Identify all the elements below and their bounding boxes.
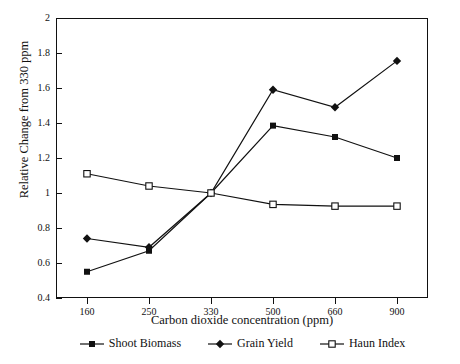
x-tick-mark (335, 298, 336, 304)
legend-item-label: Shoot Biomass (109, 336, 181, 351)
series-layer (56, 18, 428, 298)
legend-item-label: Haun Index (349, 336, 405, 351)
data-point-filled-square (394, 155, 400, 161)
data-point-open-square (270, 201, 276, 207)
x-tick-mark (273, 298, 274, 304)
series-line (87, 61, 397, 247)
data-point-open-square (394, 203, 400, 209)
data-point-open-square (84, 171, 90, 177)
y-tick-label: 0.4 (24, 293, 50, 303)
series-haun-index (84, 171, 400, 210)
data-point-open-square (332, 203, 338, 209)
x-tick-mark (211, 298, 212, 304)
data-point-open-square (146, 183, 152, 189)
x-tick-mark (149, 298, 150, 304)
legend: Shoot BiomassGrain YieldHaun Index (56, 336, 428, 351)
legend-marker-filled-square (79, 338, 105, 350)
data-point-filled-square (270, 123, 276, 129)
y-tick-mark (56, 298, 62, 299)
data-point-filled-diamond (83, 234, 91, 242)
data-point-open-square (208, 190, 214, 196)
data-point-filled-diamond (216, 339, 224, 347)
legend-item[interactable]: Haun Index (319, 336, 405, 351)
series-line (87, 174, 397, 206)
x-tick-mark (397, 298, 398, 304)
data-point-filled-square (89, 341, 95, 347)
data-point-open-square (329, 340, 335, 346)
x-tick-mark (87, 298, 88, 304)
data-point-filled-diamond (269, 86, 277, 94)
legend-marker-filled-diamond (207, 338, 233, 350)
y-axis-title: Relative Change from 330 ppm (17, 20, 32, 220)
series-grain-yield (83, 57, 401, 252)
y-tick-label: 0.8 (24, 223, 50, 233)
legend-item[interactable]: Shoot Biomass (79, 336, 181, 351)
data-point-filled-square (84, 269, 90, 275)
y-tick-label: 0.6 (24, 258, 50, 268)
legend-item[interactable]: Grain Yield (207, 336, 293, 351)
legend-marker-open-square (319, 338, 345, 350)
x-axis-title: Carbon dioxide concentration (ppm) (56, 313, 428, 328)
legend-item-label: Grain Yield (237, 336, 293, 351)
data-point-filled-square (332, 134, 338, 140)
chart-page: 0.40.60.811.21.41.61.82 1602503305006609… (0, 0, 460, 364)
